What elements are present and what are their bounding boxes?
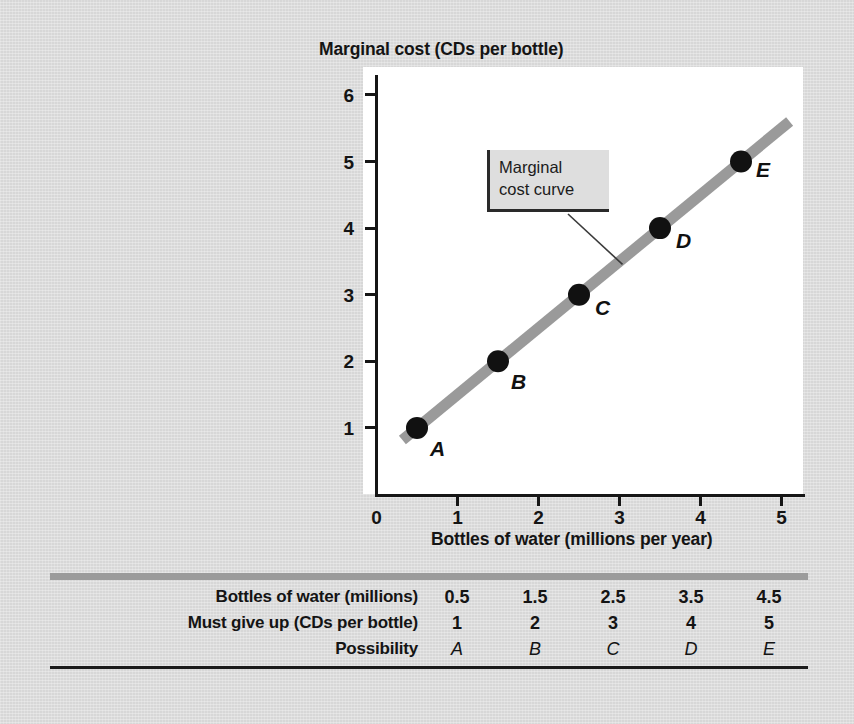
table-cell: 2 bbox=[496, 610, 574, 636]
table-cell: C bbox=[574, 636, 652, 662]
point-label-e: E bbox=[756, 159, 770, 180]
table-bottom-rule bbox=[50, 666, 808, 669]
table-cell: 4.5 bbox=[730, 584, 808, 610]
table-row: PossibilityABCDE bbox=[50, 636, 808, 662]
annotation-callout: Marginal cost curve bbox=[487, 150, 609, 212]
table-cell: B bbox=[496, 636, 574, 662]
figure-container: Marginal cost (CDs per bottle) Bottles o… bbox=[0, 0, 854, 724]
table-cell: D bbox=[652, 636, 730, 662]
annotation-label: Marginal cost curve bbox=[499, 157, 603, 201]
data-point-b bbox=[487, 350, 509, 372]
table-cell: E bbox=[730, 636, 808, 662]
table-row-header: Possibility bbox=[50, 636, 418, 662]
table-row: Must give up (CDs per bottle)12345 bbox=[50, 610, 808, 636]
data-point-d bbox=[649, 217, 671, 239]
figure-inner: Marginal cost (CDs per bottle) Bottles o… bbox=[12, 8, 842, 708]
point-label-b: B bbox=[511, 371, 526, 392]
data-table-block: Bottles of water (millions)0.51.52.53.54… bbox=[12, 556, 842, 686]
table-cell: 1 bbox=[418, 610, 496, 636]
table-cell: 3.5 bbox=[652, 584, 730, 610]
table-row: Bottles of water (millions)0.51.52.53.54… bbox=[50, 584, 808, 610]
marginal-cost-curve-svg bbox=[12, 8, 842, 553]
table-row-header: Must give up (CDs per bottle) bbox=[50, 610, 418, 636]
table-cell: 5 bbox=[730, 610, 808, 636]
annotation-leader-line bbox=[568, 214, 623, 264]
point-label-c: C bbox=[595, 297, 610, 318]
table-cell: 3 bbox=[574, 610, 652, 636]
data-point-e bbox=[730, 151, 752, 173]
table-cell: 0.5 bbox=[418, 584, 496, 610]
point-label-d: D bbox=[676, 230, 691, 251]
data-point-c bbox=[568, 284, 590, 306]
data-point-a bbox=[406, 417, 428, 439]
table-cell: 2.5 bbox=[574, 584, 652, 610]
table-row-header: Bottles of water (millions) bbox=[50, 584, 418, 610]
chart-area: Marginal cost (CDs per bottle) Bottles o… bbox=[12, 8, 842, 553]
table-cell: 1.5 bbox=[496, 584, 574, 610]
data-table: Bottles of water (millions)0.51.52.53.54… bbox=[50, 584, 808, 662]
table-top-rule bbox=[50, 573, 808, 580]
point-label-a: A bbox=[430, 438, 445, 459]
table-cell: A bbox=[418, 636, 496, 662]
table-cell: 4 bbox=[652, 610, 730, 636]
